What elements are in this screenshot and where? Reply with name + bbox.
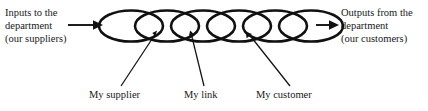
outputs-annotation: Outputs from the department (our custome…	[341, 6, 413, 46]
leader-line-my-supplier	[121, 30, 157, 86]
callout-label-my-link: My link	[184, 89, 218, 101]
inputs-annotation-line-2: department	[5, 19, 67, 32]
callout-label-my-customer: My customer	[256, 89, 312, 101]
diagram-canvas: Inputs to the department (our suppliers)…	[0, 0, 428, 111]
chain-link-4	[207, 11, 271, 42]
callout-label-my-supplier: My supplier	[89, 89, 140, 101]
inputs-annotation-line-1: Inputs to the	[5, 6, 67, 19]
output-arrow-icon	[316, 20, 339, 30]
leader-line-my-link	[189, 30, 204, 86]
chain-link-3	[171, 11, 235, 42]
ellipse-chain	[99, 11, 343, 42]
outputs-annotation-line-3: (our customers)	[341, 32, 413, 45]
input-arrow-icon	[68, 20, 103, 30]
outputs-annotation-line-2: department	[341, 19, 413, 32]
chain-link-5	[243, 11, 307, 42]
inputs-annotation: Inputs to the department (our suppliers)	[5, 6, 67, 46]
outputs-annotation-line-1: Outputs from the	[341, 6, 413, 19]
inputs-annotation-line-3: (our suppliers)	[5, 32, 67, 45]
chain-link-2	[135, 11, 199, 42]
